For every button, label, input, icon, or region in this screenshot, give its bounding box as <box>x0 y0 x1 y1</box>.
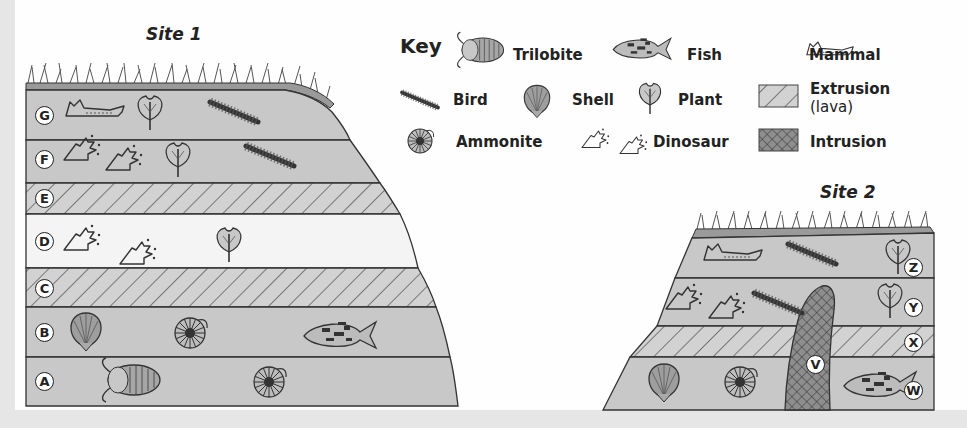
layer-label-c: C <box>35 279 54 298</box>
site1-layer-c <box>26 268 436 307</box>
site1-title: Site 1 <box>146 24 201 44</box>
layer-label-b: B <box>35 323 54 342</box>
intrusion-crosshatch-swatch <box>759 129 798 151</box>
layer-label-w: W <box>904 381 923 400</box>
key-label-intrusion: Intrusion <box>810 133 887 151</box>
key-label-shell: Shell <box>572 91 614 109</box>
site2-grass <box>697 211 928 229</box>
plant-icon <box>639 83 660 114</box>
extrusion-hatch-swatch <box>759 85 798 107</box>
site2-layer-x <box>630 326 934 357</box>
layer-label-f: F <box>35 150 54 169</box>
site1-cross-section <box>26 63 458 406</box>
key-label-plant: Plant <box>678 91 722 109</box>
site1-layer-g <box>26 90 350 140</box>
site1-layer-f <box>26 140 380 183</box>
site2-cross-section <box>603 211 934 410</box>
site1-layer-e <box>26 183 400 214</box>
key-title: Key <box>400 34 442 58</box>
ammonite-icon <box>408 129 434 153</box>
key-label-mammal: Mammal <box>809 46 881 64</box>
key-label-dinosaur: Dinosaur <box>653 133 729 151</box>
key-label-bird: Bird <box>453 91 488 109</box>
key-label-extrusion-line1: Extrusion <box>810 80 890 98</box>
trilobite-icon <box>458 32 504 67</box>
key-label-extrusion-line2: (lava) <box>810 98 890 116</box>
layer-label-d: D <box>35 232 54 251</box>
layer-label-z: Z <box>904 258 923 277</box>
layer-label-v: V <box>806 355 825 374</box>
layer-label-g: G <box>35 106 54 125</box>
layer-label-e: E <box>35 189 54 208</box>
key-label-extrusion: Extrusion (lava) <box>810 80 890 116</box>
site2-title: Site 2 <box>820 182 875 202</box>
dinosaur-footprint-icon <box>582 129 609 148</box>
bird-feather-icon <box>402 93 438 108</box>
site1-layer-a <box>26 357 458 406</box>
layer-label-x: X <box>904 333 923 352</box>
layer-label-a: A <box>35 372 54 391</box>
shell-icon <box>524 85 550 117</box>
key-label-fish: Fish <box>687 46 722 64</box>
key-label-ammonite: Ammonite <box>456 133 542 151</box>
key-label-trilobite: Trilobite <box>513 46 583 64</box>
layer-label-y: Y <box>904 298 923 317</box>
fish-icon <box>613 38 671 59</box>
dinosaur-footprint-icon <box>620 135 647 154</box>
